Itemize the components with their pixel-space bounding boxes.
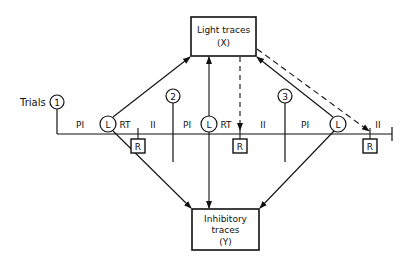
inhibitory-traces-box: Inhibitory traces (Y)	[192, 209, 259, 250]
inhibitory-traces-label: Inhibitory	[204, 214, 248, 224]
response-1: R	[131, 139, 145, 153]
svg-text:1: 1	[54, 98, 60, 108]
inhibitory-traces-label-2: traces	[212, 225, 240, 235]
svg-text:R: R	[237, 142, 243, 152]
svg-text:2: 2	[170, 92, 176, 102]
light-onset-1: L	[100, 116, 116, 132]
svg-text:R: R	[367, 142, 373, 152]
interval-pi-3: PI	[301, 120, 309, 130]
arrow-l1-to-inhibitory	[113, 131, 191, 208]
interval-ii-2: II	[260, 120, 265, 130]
light-traces-box: Light traces (X)	[191, 17, 256, 56]
light-onset-3: L	[330, 116, 346, 132]
interval-pi-2: PI	[183, 120, 191, 130]
interval-rt-1: RT	[119, 120, 131, 130]
light-traces-label: Light traces	[197, 25, 251, 35]
svg-text:L: L	[105, 120, 110, 130]
light-onset-2: L	[201, 116, 217, 132]
trials-label: Trials	[19, 97, 46, 108]
svg-text:L: L	[206, 120, 211, 130]
learning-diagram: Light traces (X) Inhibitory traces (Y) T…	[0, 0, 409, 262]
svg-text:3: 3	[282, 92, 288, 102]
response-2: R	[233, 139, 247, 153]
trial-2-marker: 2	[166, 89, 180, 103]
svg-text:L: L	[335, 120, 340, 130]
trial-3-marker: 3	[278, 89, 292, 103]
inhibitory-traces-symbol: (Y)	[219, 237, 232, 247]
arrow-l3-to-inhibitory	[260, 131, 334, 208]
response-3: R	[363, 139, 377, 153]
svg-text:R: R	[135, 142, 141, 152]
dashed-arrow-light-to-r3	[257, 49, 369, 131]
interval-pi-1: PI	[76, 120, 84, 130]
arrow-l1-to-light	[113, 57, 190, 117]
interval-ii-3: II	[375, 120, 380, 130]
arrow-l3-to-light	[257, 57, 333, 117]
light-traces-symbol: (X)	[217, 38, 230, 48]
trial-1-marker: 1	[50, 95, 64, 109]
interval-ii-1: II	[150, 120, 155, 130]
interval-rt-2: RT	[220, 120, 232, 130]
